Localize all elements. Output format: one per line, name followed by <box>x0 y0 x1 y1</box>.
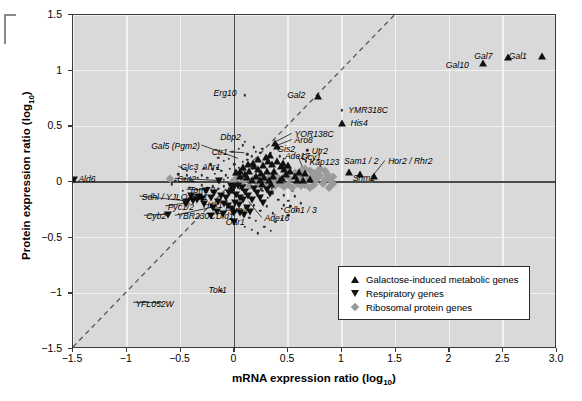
gene-label: Gal1 <box>509 52 527 61</box>
data-point-galactose <box>267 181 275 188</box>
x-tick-label: 3.0 <box>549 352 564 364</box>
data-point-respiratory <box>230 184 238 191</box>
data-point-respiratory <box>266 191 274 198</box>
x-axis-label: mRNA expression ratio (log10) <box>72 372 556 387</box>
data-point-respiratory <box>215 178 223 185</box>
x-tick-label: −0.5 <box>169 352 190 364</box>
legend-label: Respiratory genes <box>366 288 444 299</box>
gene-label: Utr2 <box>312 147 328 156</box>
gene-label: Ahr1 <box>202 163 220 172</box>
scan-artifact-horizontal <box>4 14 16 16</box>
y-tick-label: −1 <box>50 286 62 298</box>
legend-item: Galactose-induced metabolic genes <box>347 272 519 286</box>
diamond-icon <box>347 304 363 310</box>
data-point-galactose <box>248 176 256 183</box>
x-tick-label: 2 <box>446 352 452 364</box>
data-point-respiratory <box>248 196 256 203</box>
gene-label: Ade16 <box>264 214 289 223</box>
gene-label: Erg10 <box>214 89 237 98</box>
triangle-down-icon <box>347 290 363 297</box>
y-tick-label: −0.5 <box>41 231 62 243</box>
y-tick-label: 0 <box>56 175 62 187</box>
gene-label: His4 <box>350 119 367 128</box>
legend: Galactose-induced metabolic genesRespira… <box>338 266 530 320</box>
x-tick-label: 0 <box>230 352 236 364</box>
x-tickmark <box>395 348 396 352</box>
x-tickmark <box>180 348 181 352</box>
data-point-galactose <box>262 153 270 160</box>
x-tick-label: 1.5 <box>387 352 402 364</box>
gene-label: Tok1 <box>209 286 227 295</box>
gene-label: Shm2 <box>353 174 375 183</box>
x-tickmark <box>502 348 503 352</box>
x-tick-label: 1 <box>338 352 344 364</box>
legend-item: Respiratory genes <box>347 286 519 300</box>
data-point-galactose <box>258 180 266 187</box>
gene-label: Kap123 <box>310 158 340 167</box>
y-tick-label: −1.5 <box>41 342 62 354</box>
gene-label: YFL052W <box>135 300 173 309</box>
y-tick-label: 1 <box>56 64 62 76</box>
x-tickmark <box>72 348 73 352</box>
gene-label: Gal7 <box>474 52 492 61</box>
gene-label: Gal5 (Pgm2) <box>151 142 200 151</box>
data-point-galactose <box>276 177 284 184</box>
gene-label: Oar1 <box>226 218 245 227</box>
legend-label: Galactose-induced metabolic genes <box>366 274 519 285</box>
data-point-galactose <box>284 162 292 169</box>
data-point-galactose <box>295 168 303 175</box>
data-point-galactose <box>538 53 546 60</box>
x-tick-label: 0.5 <box>280 352 295 364</box>
x-tickmark <box>287 348 288 352</box>
data-point-galactose <box>268 160 276 167</box>
triangle-up-icon <box>347 276 363 283</box>
x-tick-label: 2.5 <box>495 352 510 364</box>
data-point-galactose <box>244 161 252 168</box>
gene-label: YBR230C <box>177 212 215 221</box>
data-point-galactose <box>314 93 322 100</box>
gene-label: Glc3 <box>181 163 199 172</box>
gene-label: Gal10 <box>446 61 469 70</box>
gene-label: Gut2 <box>177 175 196 184</box>
gene-label: Hxk1 <box>203 201 223 210</box>
gene-label: Dbp2 <box>220 133 241 142</box>
x-tickmark <box>556 348 557 352</box>
x-tickmark <box>233 348 234 352</box>
x-tick-label: −1 <box>120 352 132 364</box>
scan-artifact-vertical <box>4 14 6 44</box>
gene-label: Hor2 / Rhr2 <box>388 157 432 166</box>
y-axis-label: Protein expression ratio (log10) <box>20 26 35 326</box>
gene-label: Ctr1 <box>212 148 228 157</box>
gene-label: Sam1 / 2 <box>344 157 378 166</box>
x-tickmark <box>448 348 449 352</box>
gene-label: Aro8 <box>295 136 313 145</box>
gene-label: Pyc1/2 <box>168 203 194 212</box>
legend-label: Ribosomal protein genes <box>366 302 472 313</box>
gene-label: Gdh1 / 3 <box>284 206 317 215</box>
x-tickmark <box>126 348 127 352</box>
legend-item: Ribosomal protein genes <box>347 300 519 314</box>
gene-label: Pgm1 <box>225 206 247 215</box>
data-point-galactose <box>306 175 314 182</box>
x-tick-label: −1.5 <box>62 352 83 364</box>
data-point-respiratory <box>259 200 267 207</box>
data-point-galactose <box>232 168 240 175</box>
y-tick-label: 1.5 <box>47 8 62 20</box>
data-point-galactose <box>338 119 346 126</box>
x-axis-label-text: mRNA expression ratio <box>232 372 359 384</box>
gene-label: Sdhl / YJLO45W <box>142 193 205 202</box>
gene-label: Gal2 <box>287 91 305 100</box>
y-tick-label: 0.5 <box>47 119 62 131</box>
scatter-plot-figure: 1.510.50−0.5−1−1.5 Gal1Gal7Gal10Erg10Gal… <box>0 0 582 401</box>
x-tickmark <box>341 348 342 352</box>
gene-label: Ald6 <box>78 175 95 184</box>
gene-label: YMR318C <box>348 106 388 115</box>
y-axis-label-text: Protein expression ratio <box>20 128 32 260</box>
gene-label: Cyb2 <box>146 212 166 221</box>
